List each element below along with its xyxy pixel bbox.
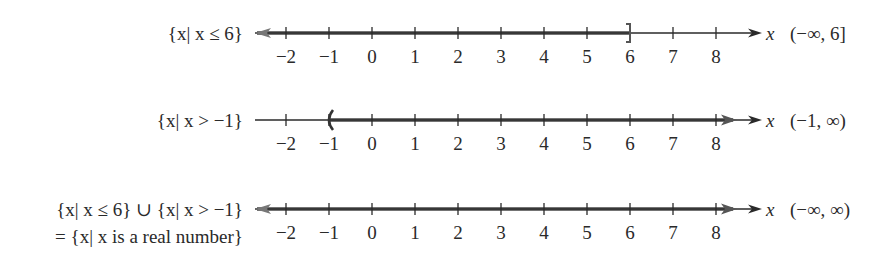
- tick-label: 8: [711, 134, 721, 153]
- tick-label: 2: [453, 223, 463, 242]
- tick-label: 3: [496, 134, 506, 153]
- tick-label: 8: [711, 47, 721, 66]
- tick-label: −1: [319, 223, 339, 242]
- tick-label: −2: [276, 47, 296, 66]
- tick-label: 8: [711, 223, 721, 242]
- tick-label: 2: [453, 134, 463, 153]
- tick-label: 0: [367, 47, 377, 66]
- tick-label: 6: [625, 47, 635, 66]
- tick-label: 1: [410, 134, 420, 153]
- tick-label: 2: [453, 47, 463, 66]
- tick-label: 3: [496, 47, 506, 66]
- interval-notation-row-1: (−∞, 6]: [790, 24, 846, 43]
- tick-label: 0: [367, 134, 377, 153]
- tick-label: 6: [625, 134, 635, 153]
- tick-label: 1: [410, 47, 420, 66]
- tick-label: 4: [539, 223, 549, 242]
- interval-notation-row-2: (−1, ∞): [790, 111, 846, 130]
- set-label-row-2: {x| x > −1}: [157, 111, 243, 130]
- tick-label: −1: [319, 47, 339, 66]
- tick-label: 5: [582, 47, 592, 66]
- axis-variable-label-row-3: x: [766, 200, 774, 219]
- tick-label: 3: [496, 223, 506, 242]
- tick-label: 7: [668, 47, 678, 66]
- set-label-row-3: {x| x ≤ 6} ∪ {x| x > −1}: [56, 200, 243, 219]
- tick-label: 0: [367, 223, 377, 242]
- number-line-figure: {x| x ≤ 6} x (−∞, 6] {x| x > −1} x (−1, …: [0, 0, 888, 258]
- tick-label: 4: [539, 134, 549, 153]
- tick-label: 6: [625, 223, 635, 242]
- tick-label: 5: [582, 134, 592, 153]
- tick-label: 7: [668, 223, 678, 242]
- axis-variable-label-row-1: x: [766, 24, 774, 43]
- set-label-row-3-line-2: = {x| x is a real number}: [55, 227, 243, 246]
- tick-label: 4: [539, 47, 549, 66]
- tick-label: 5: [582, 223, 592, 242]
- interval-notation-row-3: (−∞, ∞): [790, 200, 850, 219]
- tick-label: −2: [276, 223, 296, 242]
- tick-label: 1: [410, 223, 420, 242]
- tick-label: −1: [319, 134, 339, 153]
- tick-label: −2: [276, 134, 296, 153]
- axis-variable-label-row-2: x: [766, 111, 774, 130]
- tick-label: 7: [668, 134, 678, 153]
- set-label-row-1: {x| x ≤ 6}: [168, 24, 243, 43]
